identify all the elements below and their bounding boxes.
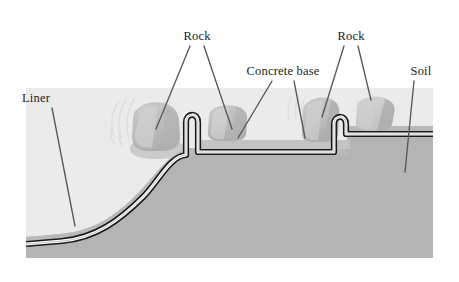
label-concrete-base: Concrete base <box>246 64 319 78</box>
label-soil: Soil <box>411 64 432 78</box>
rock-2 <box>208 105 247 141</box>
liner-cross-section-figure: Liner Rock Concrete base Rock Soil <box>0 0 459 282</box>
scene-body <box>26 88 433 258</box>
label-rock-left: Rock <box>183 29 211 43</box>
diagram-canvas: Liner Rock Concrete base Rock Soil <box>0 0 459 282</box>
label-rock-right: Rock <box>337 29 365 43</box>
label-liner: Liner <box>22 91 51 105</box>
rock-4 <box>356 97 395 131</box>
